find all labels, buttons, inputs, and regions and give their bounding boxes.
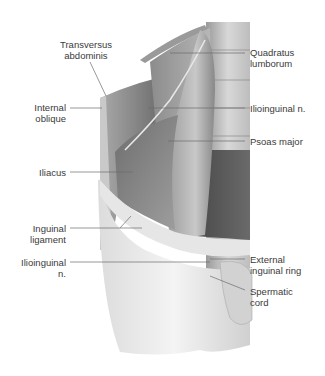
label-inguinal-ligament: Inguinal ligament	[10, 223, 66, 245]
label-psoas-major: Psoas major	[250, 136, 303, 147]
label-quadratus-lumborum: Quadratus lumborum	[250, 47, 294, 69]
label-ilioinguinal-nerve-right: Ilioinguinal n.	[250, 103, 305, 114]
label-spermatic-cord: Spermatic cord	[250, 286, 293, 308]
label-transversus-abdominis: Transversus abdominis	[60, 39, 112, 61]
label-ilioinguinal-nerve-left: Ilioinguinal n.	[5, 257, 66, 279]
label-iliacus: Iliacus	[20, 167, 66, 178]
label-internal-oblique: Internal oblique	[20, 102, 66, 124]
anatomy-figure: Transversus abdominis Internal oblique I…	[0, 0, 325, 376]
label-external-inguinal-ring: External inguinal ring	[250, 254, 301, 276]
